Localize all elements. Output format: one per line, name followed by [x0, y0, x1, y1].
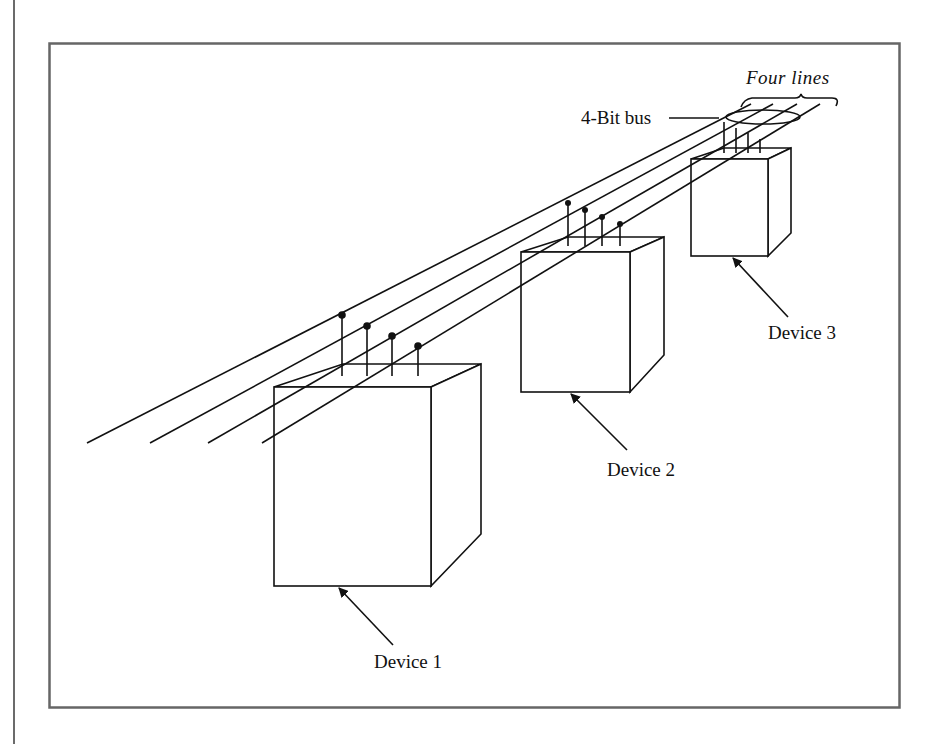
device-2-label: Device 2	[607, 459, 675, 480]
four-lines-brace	[741, 94, 837, 107]
four-lines-label: Four lines	[745, 67, 830, 88]
bus-diagram: 4-Bit bus Four lines Device 1 Device 2 D…	[0, 0, 943, 744]
device-1-box	[274, 364, 481, 586]
device-2-box	[521, 237, 664, 392]
tap-dot	[582, 207, 588, 213]
device-2-arrow	[571, 394, 627, 450]
tap-dot	[338, 311, 346, 319]
bus-label: 4-Bit bus	[581, 107, 651, 128]
device-3-box	[691, 148, 791, 256]
tap-dot	[565, 200, 571, 206]
tap-dot	[599, 214, 605, 220]
tap-dot	[414, 342, 422, 350]
device-1-label: Device 1	[374, 651, 442, 672]
tap-dot	[363, 322, 371, 330]
tap-dot	[617, 221, 623, 227]
bus-ellipse	[726, 110, 800, 124]
device-1-arrow	[339, 588, 393, 645]
tap-dot	[388, 332, 396, 340]
device-3-arrow	[733, 258, 788, 317]
bus-line-3	[208, 104, 797, 443]
device-3-label: Device 3	[768, 322, 836, 343]
